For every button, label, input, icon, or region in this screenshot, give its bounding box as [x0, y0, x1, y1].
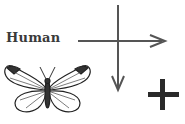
arrow-right-icon — [78, 35, 165, 47]
diagram-canvas — [0, 0, 185, 124]
plus-icon — [148, 79, 179, 110]
arrow-down-icon — [112, 5, 124, 90]
butterfly-icon — [5, 66, 90, 112]
